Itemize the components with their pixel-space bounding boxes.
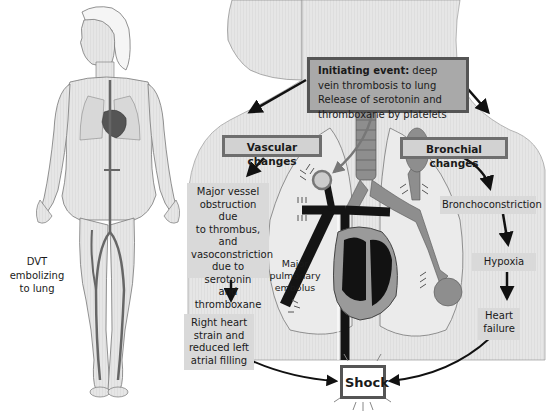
bronchial-step-hypoxia: Hypoxia <box>472 253 536 271</box>
embolus-icon <box>313 171 331 189</box>
initiating-event-label: Initiating event: <box>318 65 409 76</box>
heart <box>334 227 398 320</box>
bronchial-changes-header: Bronchial changes <box>400 137 508 159</box>
major-pulmonary-embolus-label: Major pulmonary embolus <box>265 258 325 294</box>
vascular-changes-header: Vascular changes <box>222 135 322 157</box>
vascular-step-obstruction: Major vessel obstruction due to thrombus… <box>187 183 269 278</box>
initiating-event-box: Initiating event: deep vein thrombosis t… <box>307 57 469 113</box>
shock-box: Shock <box>340 365 386 399</box>
bronchial-step-heart-failure: Heart failure <box>478 308 520 340</box>
dvt-caption: DVT embolizing to lung <box>2 255 72 296</box>
vascular-step-right-heart-strain: Right heart strain and reduced left atri… <box>184 314 254 370</box>
body-figure <box>36 7 179 397</box>
bronchial-step-bronchoconstriction: Bronchoconstriction <box>440 196 536 214</box>
